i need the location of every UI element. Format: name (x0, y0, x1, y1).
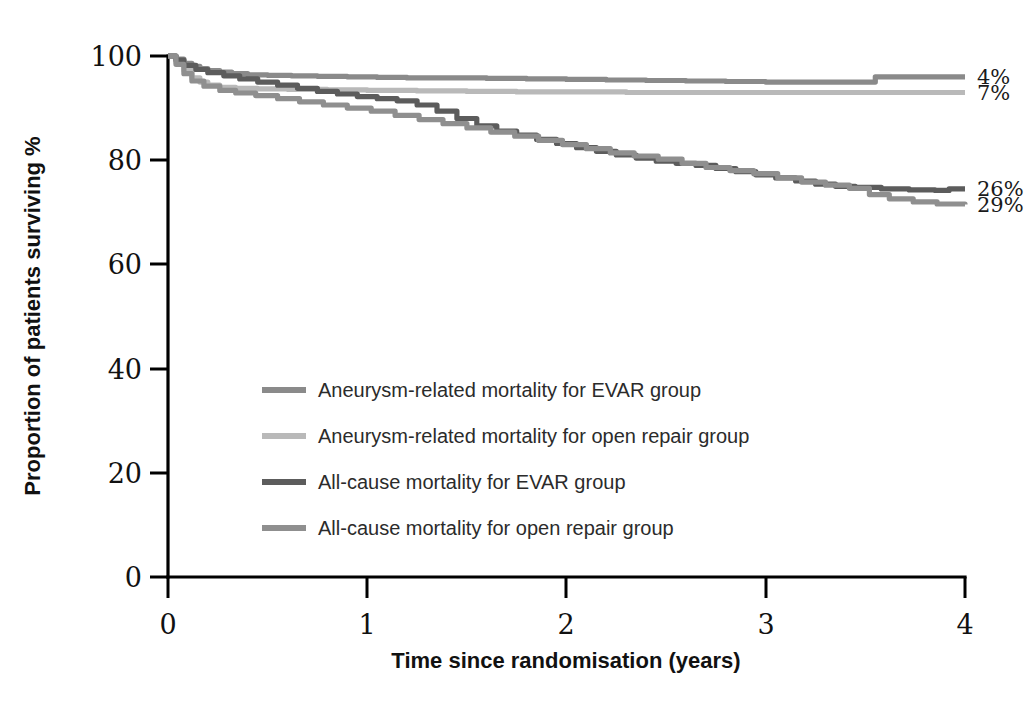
x-tick-label-4: 4 (956, 609, 973, 640)
series-curve (168, 56, 965, 82)
legend-label: All-cause mortality for EVAR group (318, 471, 626, 493)
x-tick-labels: 0 1 2 3 4 (159, 609, 973, 640)
kaplan-meier-plot: 100 80 60 40 20 0 0 1 2 3 4 Time since r… (0, 0, 1036, 706)
y-tick-label-40: 40 (108, 354, 142, 385)
y-tick-label-20: 20 (108, 458, 142, 489)
x-axis-ticks (168, 577, 965, 598)
x-tick-label-2: 2 (557, 609, 574, 640)
series-end-label: 29% (977, 193, 1024, 217)
x-tick-label-1: 1 (358, 609, 375, 640)
y-tick-label-60: 60 (108, 249, 142, 280)
chart-legend: Aneurysm-related mortality for EVAR grou… (262, 379, 749, 539)
x-tick-label-0: 0 (159, 609, 176, 640)
legend-label: Aneurysm-related mortality for EVAR grou… (318, 379, 701, 401)
survival-chart-figure: 100 80 60 40 20 0 0 1 2 3 4 Time since r… (0, 0, 1036, 706)
legend-label: Aneurysm-related mortality for open repa… (318, 425, 749, 447)
y-axis-ticks (150, 56, 168, 577)
y-tick-label-80: 80 (108, 145, 142, 176)
x-axis-title: Time since randomisation (years) (391, 648, 740, 673)
y-tick-label-100: 100 (90, 41, 142, 72)
legend-label: All-cause mortality for open repair grou… (318, 517, 674, 539)
y-tick-label-0: 0 (125, 562, 142, 593)
x-tick-label-3: 3 (757, 609, 774, 640)
y-tick-labels: 100 80 60 40 20 0 (90, 41, 142, 593)
series-end-labels: 4%7%26%29% (977, 65, 1024, 217)
y-axis-title: Proportion of patients surviving % (20, 136, 45, 495)
series-end-label: 7% (977, 81, 1010, 105)
series-curves (168, 56, 965, 205)
